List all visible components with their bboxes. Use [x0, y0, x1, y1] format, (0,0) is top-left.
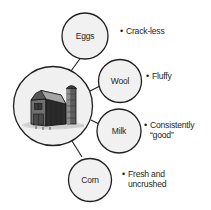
- attribute-milk: • Consistently “good”: [144, 120, 194, 141]
- attribute-wool: • Fluffy: [146, 71, 172, 81]
- attribute-text-wool: Fluffy: [152, 71, 172, 81]
- hub-and-spoke-diagram: Eggs Wool Milk Corn • Crack-less • Fluff…: [0, 0, 211, 210]
- bullet-icon: •: [146, 71, 149, 81]
- bullet-icon: •: [120, 26, 123, 36]
- bullet-icon: •: [122, 169, 125, 179]
- connector-hub-corn: [72, 141, 82, 157]
- diagram-canvas: [0, 0, 211, 210]
- node-label-corn: Corn: [81, 176, 99, 185]
- attribute-text-milk: Consistently “good”: [150, 120, 194, 141]
- attribute-corn: • Fresh and uncrushed: [122, 169, 166, 190]
- node-label-eggs: Eggs: [76, 32, 95, 41]
- hub-circle: [14, 67, 93, 146]
- node-label-milk: Milk: [112, 127, 126, 136]
- bullet-icon: •: [144, 120, 147, 130]
- node-label-wool: Wool: [111, 77, 129, 86]
- attribute-text-corn: Fresh and uncrushed: [128, 169, 166, 190]
- attribute-text-eggs: Crack-less: [126, 26, 165, 36]
- attribute-eggs: • Crack-less: [120, 26, 165, 36]
